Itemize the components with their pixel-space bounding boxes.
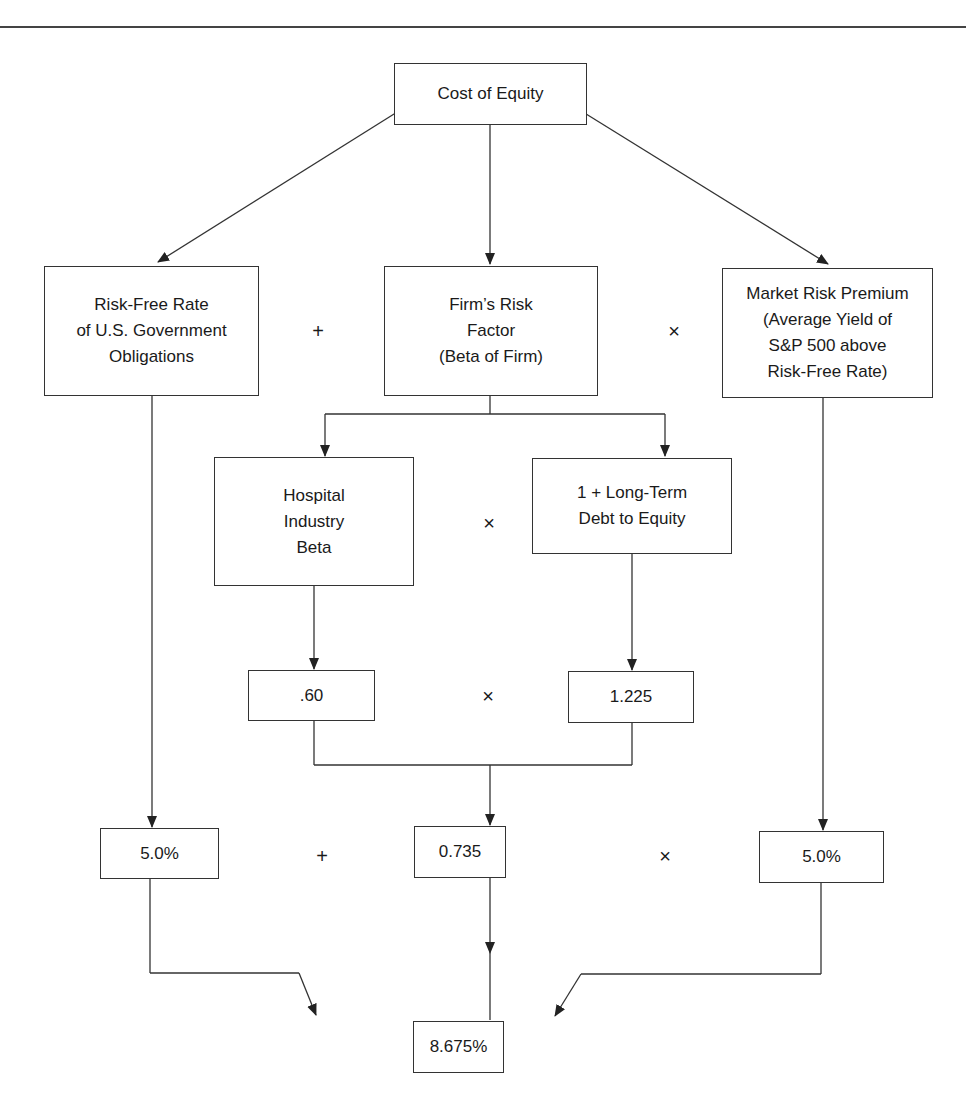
firm-risk-factor-box: Firm’s Risk Factor (Beta of Firm) [384, 266, 598, 396]
debt-to-equity-value-box: 1.225 [568, 671, 694, 723]
times-operator: × [664, 321, 684, 341]
times-operator: × [478, 686, 498, 706]
risk-free-value-box: 5.0% [100, 828, 219, 879]
debt-to-equity-box: 1 + Long-Term Debt to Equity [532, 458, 732, 554]
beta-value-box: 0.735 [414, 826, 506, 878]
industry-beta-value-box: .60 [248, 670, 375, 721]
plus-operator: + [312, 846, 332, 866]
connector-lines [0, 0, 966, 1099]
market-risk-premium-box: Market Risk Premium (Average Yield of S&… [722, 268, 933, 398]
times-operator: × [655, 846, 675, 866]
plus-operator: + [308, 321, 328, 341]
cost-of-equity-box: Cost of Equity [394, 63, 587, 125]
times-operator: × [479, 513, 499, 533]
market-premium-value-box: 5.0% [759, 831, 884, 883]
result-box: 8.675% [413, 1021, 504, 1073]
risk-free-rate-box: Risk-Free Rate of U.S. Government Obliga… [44, 266, 259, 396]
hospital-industry-beta-box: Hospital Industry Beta [214, 457, 414, 586]
